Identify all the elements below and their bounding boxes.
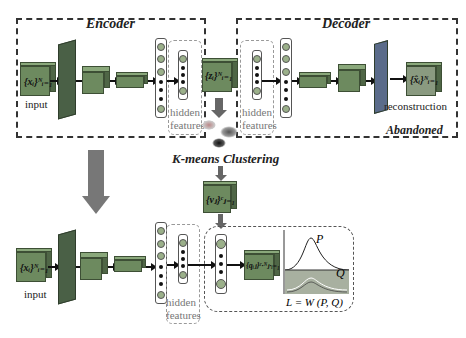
arrow — [48, 266, 56, 268]
p-label: P — [316, 232, 323, 247]
arrow — [227, 264, 241, 266]
decoder-hidden-label: hidden features — [242, 106, 277, 132]
arrow — [262, 80, 277, 82]
latent-math: {zᵢ}ᴺᵢ₌₁ — [205, 70, 232, 81]
conv-slab — [58, 40, 76, 120]
bottom-hidden-label: hidden features — [166, 296, 201, 322]
scatter-cluster — [202, 120, 216, 130]
reconstruction-math: {x̂ᵢ}ᴺᵢ₌₁ — [410, 74, 439, 85]
arrow — [167, 264, 175, 266]
encoder-layer — [155, 38, 167, 118]
reconstruction-label: reconstruction — [384, 100, 447, 112]
arrow — [50, 80, 58, 82]
scatter-cluster — [212, 138, 226, 148]
arrow — [167, 80, 175, 82]
bottom-conv-block — [80, 252, 108, 280]
encoder-title: Encoder — [86, 16, 135, 32]
input-math: {xᵢ}ᴺᵢ₌₁ — [24, 76, 53, 87]
kmeans-title: K-means Clustering — [172, 151, 279, 167]
decoder-conv-block — [338, 64, 366, 92]
dense-block — [116, 72, 148, 88]
arrow — [390, 78, 404, 80]
arrow — [146, 266, 152, 268]
encoder-hidden-layer — [178, 50, 188, 100]
clustering-layer — [215, 234, 227, 294]
arrow — [148, 80, 154, 82]
bottom-conv-slab — [58, 230, 76, 305]
loss-formula: L = W (P, Q) — [286, 296, 343, 308]
arrow — [331, 80, 337, 82]
big-down-arrow-icon — [82, 196, 110, 214]
bottom-input-label: input — [24, 288, 47, 300]
bottom-hidden-layer — [178, 234, 188, 284]
conv-block — [82, 66, 110, 94]
centroid-math: {vⱼ}ᶜⱼ₌₁ — [206, 194, 235, 205]
down-arrow-icon — [211, 110, 227, 118]
decoder-layer — [280, 38, 292, 118]
decoder-hidden-layer — [252, 50, 262, 100]
decoder-title: Decoder — [322, 16, 370, 32]
encoder-hidden-label: hidden features — [170, 106, 205, 132]
q-math: {qᵢⱼ}ᶜ·ᴺⱼ·ᵢ₌₁ — [246, 260, 280, 270]
q-label: Q — [336, 266, 345, 281]
arrow — [292, 80, 298, 82]
big-down-arrow-icon — [88, 150, 104, 196]
down-arrow-icon — [215, 98, 223, 110]
arrow — [188, 264, 212, 266]
arrow — [366, 80, 372, 82]
bottom-dense-block — [114, 256, 146, 272]
abandoned-label: Abandoned — [386, 123, 443, 138]
decoder-dense-block — [299, 72, 331, 88]
bottom-input-math: {xᵢ}ᴺᵢ₌₁ — [20, 262, 49, 273]
scatter-cluster — [220, 126, 238, 138]
input-label: input — [25, 98, 48, 110]
